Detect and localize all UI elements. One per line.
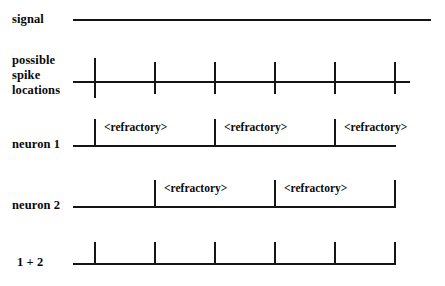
row-label-sum-1-plus-2: 1 + 2 <box>17 255 43 270</box>
row-label-possible-spike-locations: possible spike locations <box>12 53 60 98</box>
refractory-label-neuron-1-1: <refractory> <box>104 121 167 134</box>
row-possible-spike-locations <box>73 58 410 98</box>
row-sum-1-plus-2 <box>73 242 396 264</box>
diagram-canvas <box>0 0 445 286</box>
refractory-label-neuron-2-1: <refractory> <box>164 182 227 195</box>
row-label-neuron-1: neuron 1 <box>12 137 60 152</box>
spike-timing-diagram: signalpossible spike locationsneuron 1<r… <box>0 0 445 286</box>
row-neuron-2 <box>73 180 396 207</box>
refractory-label-neuron-1-2: <refractory> <box>224 121 287 134</box>
row-label-neuron-2: neuron 2 <box>12 198 60 213</box>
row-label-signal: signal <box>12 12 44 27</box>
refractory-label-neuron-1-3: <refractory> <box>344 121 407 134</box>
refractory-label-neuron-2-2: <refractory> <box>284 182 347 195</box>
